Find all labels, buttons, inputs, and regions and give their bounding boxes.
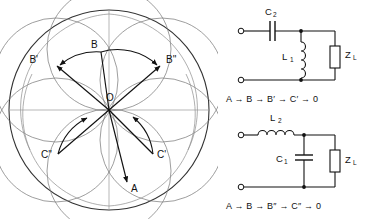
label-ZL-subscript: L [353, 54, 357, 61]
circuit-panel: C 2 L 1 Z L A → B → B′ → C′ → 0 [218, 0, 372, 219]
circuit-top-svg: C 2 L 1 Z L A → B → B′ → C′ → 0 [218, 0, 372, 110]
inductor-L2-symbol [258, 131, 294, 136]
chart-label-B: B [91, 39, 98, 50]
circuit-bottom-svg: L 2 C 1 Z L A → B → B″ → C″ → 0 [218, 108, 372, 219]
label-C2: C [265, 6, 272, 17]
impedance-box-ZL [330, 46, 340, 68]
label-L1-subscript: 1 [290, 56, 294, 63]
vector-O-A [109, 110, 127, 182]
smith-chart-svg: O B B' B'' C' C'' A [0, 0, 218, 219]
path-sequence-top: A → B → B′ → C′ → 0 [226, 94, 318, 104]
vector-O-Bprime [57, 66, 109, 110]
arc-Cprime-to-O [133, 117, 153, 154]
chart-label-B-prime: B' [29, 54, 38, 65]
terminal-bottom-input-upper[interactable] [238, 132, 244, 138]
junction-bottom-node [299, 78, 303, 82]
chart-label-C-prime: C' [157, 149, 166, 160]
label-ZL-2: Z [345, 154, 351, 165]
inductor-L1-symbol [301, 42, 306, 78]
terminal-top-input-upper[interactable] [238, 28, 244, 34]
chart-label-O: O [106, 92, 114, 103]
vector-O-Bdoubleprime [109, 66, 160, 110]
label-ZL-2-subscript: L [353, 159, 357, 166]
arc-B-to-Bdoubleprime [101, 50, 157, 65]
chart-label-C-double-prime: C'' [41, 149, 52, 160]
circuit-lowpass-shunt-c: L 2 C 1 Z L A → B → B″ → C″ → 0 [218, 108, 372, 219]
vector-O-Cdoubleprime [58, 110, 109, 154]
path-sequence-bottom: A → B → B″ → C″ → 0 [226, 201, 321, 211]
chart-label-A: A [131, 183, 138, 194]
label-C2-subscript: 2 [273, 11, 277, 18]
label-L1: L [282, 51, 287, 62]
terminal-bottom-input-lower[interactable] [238, 184, 244, 190]
label-ZL: Z [345, 49, 351, 60]
arc-B-to-Bprime [60, 52, 101, 65]
figure-root: O B B' B'' C' C'' A [0, 0, 372, 219]
vector-group [57, 52, 160, 182]
impedance-box-ZL-2 [330, 150, 340, 172]
label-L2: L [270, 112, 275, 123]
label-C1-subscript: 1 [284, 158, 288, 165]
smith-chart-panel: O B B' B'' C' C'' A [0, 0, 218, 219]
capacitor-C1-symbol [295, 155, 313, 160]
junction-bottom-node-2 [302, 185, 306, 189]
capacitor-C2-symbol [270, 21, 275, 41]
circuit-lowpass-shunt-l: C 2 L 1 Z L A → B → B′ → C′ → 0 [218, 0, 372, 110]
junction-top-node-2 [302, 133, 306, 137]
terminal-top-input-lower[interactable] [238, 77, 244, 83]
label-L2-subscript: 2 [278, 117, 282, 124]
chart-label-B-double-prime: B'' [166, 54, 177, 65]
label-C1: C [276, 153, 283, 164]
junction-top-node [299, 29, 303, 33]
